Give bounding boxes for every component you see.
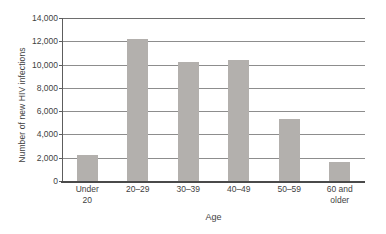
plot-area — [62, 18, 365, 181]
x-axis-tick-label: 60 andolder — [313, 184, 367, 205]
x-axis-tick-label-line1: 50–59 — [277, 184, 301, 194]
x-axis-tick-label-line2: older — [313, 195, 367, 206]
y-axis-tick-label: 14,000 — [20, 13, 58, 23]
y-axis-tick-label: 6,000 — [20, 106, 58, 116]
bar — [77, 155, 98, 181]
y-axis-tick-labels: 02,0004,0006,0008,00010,00012,00014,000 — [20, 0, 58, 234]
x-axis-tick-label-line1: 30–39 — [176, 184, 200, 194]
x-axis-tick-labels: Under2020–2930–3940–4950–5960 andolder — [62, 184, 365, 214]
y-axis-tick-label: 10,000 — [20, 60, 58, 70]
gridline — [62, 111, 365, 112]
y-axis-line — [62, 18, 63, 181]
x-axis-tick-label: Under20 — [60, 184, 114, 205]
x-axis-tick-label-line2: 20 — [60, 195, 114, 206]
y-axis-tick-label: 0 — [20, 176, 58, 186]
bar-chart: Number of new HIV infections 02,0004,000… — [0, 0, 386, 234]
y-axis-tick-label: 2,000 — [20, 153, 58, 163]
gridline — [62, 88, 365, 89]
bar — [178, 62, 199, 181]
bar — [228, 60, 249, 181]
y-axis-tick-label: 4,000 — [20, 129, 58, 139]
bar — [329, 162, 350, 181]
gridline — [62, 134, 365, 135]
x-axis-tick-label: 20–29 — [111, 184, 165, 195]
gridline — [62, 41, 365, 42]
bar — [127, 39, 148, 181]
x-axis-tick-label-line1: Under — [76, 184, 99, 194]
x-axis-tick-label: 50–59 — [262, 184, 316, 195]
y-axis-tick-label: 12,000 — [20, 36, 58, 46]
x-axis-tick-label-line1: 20–29 — [126, 184, 150, 194]
x-axis-line — [61, 181, 365, 184]
x-axis-tick-label: 40–49 — [212, 184, 266, 195]
y-axis-tick-label: 8,000 — [20, 83, 58, 93]
x-axis-tick-label-line1: 60 and — [327, 184, 353, 194]
gridline — [62, 65, 365, 66]
x-axis-tick-label-line1: 40–49 — [227, 184, 251, 194]
x-axis-tick-label: 30–39 — [161, 184, 215, 195]
gridline — [62, 158, 365, 159]
x-axis-title: Age — [62, 212, 365, 222]
bar — [279, 119, 300, 181]
gridline — [62, 18, 365, 19]
